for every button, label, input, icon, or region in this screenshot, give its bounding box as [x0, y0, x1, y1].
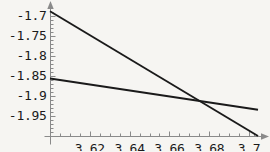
y-axis-arrowhead: [47, 1, 53, 9]
data-line-steep-line: [50, 11, 258, 136]
y-tick-label: -1.9: [16, 88, 46, 103]
y-tick-label: -1.85: [9, 68, 47, 83]
plot-area: -1.7-1.75-1.8-1.85-1.9-1.95 3.623.643.66…: [0, 0, 270, 151]
data-line-shallow-line: [50, 79, 258, 110]
y-tick-label: -1.8: [16, 48, 46, 63]
y-tick-label: -1.7: [16, 8, 46, 23]
y-tick-label: -1.95: [9, 108, 47, 123]
x-axis-arrowhead: [261, 133, 269, 139]
y-tick-label: -1.75: [9, 28, 47, 43]
x-tick-label: 3.7: [219, 141, 270, 152]
